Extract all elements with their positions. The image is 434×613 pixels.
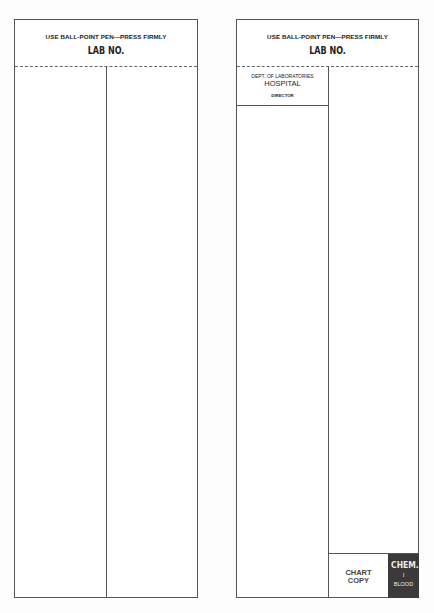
category-line1: CHEM. [391,559,416,570]
director-label: DIRECTOR [237,93,328,98]
category-line2: I [388,572,419,578]
category-badge: CHEM. I BLOOD [388,554,419,598]
right-lab-form: USE BALL-POINT PEN—PRESS FIRMLY LAB NO. … [236,19,419,598]
left-form-header: USE BALL-POINT PEN—PRESS FIRMLY LAB NO. [15,20,197,66]
left-lab-form: USE BALL-POINT PEN—PRESS FIRMLY LAB NO. [14,19,198,598]
left-field-col1[interactable] [15,67,106,597]
chart-copy-line2: COPY [329,576,388,585]
left-lab-no-label: LAB NO. [29,44,184,56]
hospital-label: HOSPITAL [237,79,328,88]
right-lab-no-label: LAB NO. [251,44,405,56]
right-field-col2[interactable] [329,67,418,552]
right-field-col1[interactable] [237,106,328,597]
left-instruction-text: USE BALL-POINT PEN—PRESS FIRMLY [15,33,197,40]
dept-box: DEPT. OF LABORATORIES HOSPITAL DIRECTOR [237,67,328,105]
right-instruction-text: USE BALL-POINT PEN—PRESS FIRMLY [237,33,418,40]
chart-copy-box: CHART COPY [329,554,388,597]
right-form-header: USE BALL-POINT PEN—PRESS FIRMLY LAB NO. [237,20,418,66]
left-field-col2[interactable] [107,67,197,597]
category-line3: BLOOD [388,581,419,587]
